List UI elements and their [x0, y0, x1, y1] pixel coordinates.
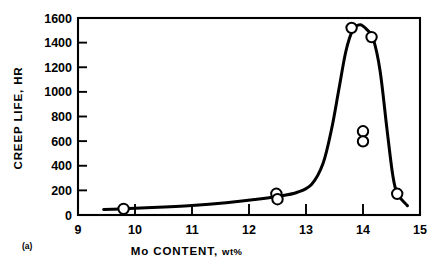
y-tick-label-800: 800	[51, 110, 72, 124]
y-tick-label-1400: 1400	[44, 36, 72, 50]
x-tick-label-14: 14	[356, 223, 370, 237]
y-tick-label-1000: 1000	[44, 85, 72, 99]
data-point-marker: 14.0 wt%, 598 hr	[358, 136, 368, 146]
plot-frame	[78, 18, 420, 215]
y-tick-label-0: 0	[65, 209, 72, 223]
y-tick-label-1200: 1200	[44, 61, 72, 75]
x-axis-tick-labels: 9101112131415	[75, 223, 427, 237]
y-axis-ticks	[78, 18, 87, 215]
data-point-marker: 14.6 wt%, 172 hr	[392, 189, 402, 199]
data-point-marker: 12.5 wt%, 128 hr	[272, 194, 282, 204]
y-tick-label-1600: 1600	[44, 12, 72, 26]
data-point-markers: 9.8 wt%, 50 hr12.48 wt%, 172 hr12.5 wt%,…	[118, 23, 402, 214]
data-point-marker: 9.8 wt%, 50 hr	[118, 204, 128, 214]
x-tick-label-11: 11	[185, 223, 198, 237]
x-tick-label-9: 9	[75, 223, 82, 237]
creep-life-vs-mo-content-chart: 02004006008001000120014001600 9101112131…	[0, 0, 447, 267]
creep-life-curve	[104, 25, 408, 210]
x-tick-label-10: 10	[128, 223, 142, 237]
y-tick-label-200: 200	[51, 184, 72, 198]
y-axis-tick-labels: 02004006008001000120014001600	[44, 12, 72, 223]
data-point-marker: 13.8 wt%, 1520 hr	[346, 23, 356, 33]
x-axis-unit-label: wt%	[221, 246, 243, 257]
x-axis-title: Mo CONTENT,	[131, 245, 218, 257]
figure-container: 02004006008001000120014001600 9101112131…	[0, 0, 447, 267]
y-tick-label-400: 400	[51, 159, 72, 173]
data-point-marker: 14.15 wt%, 1445 hr	[366, 32, 376, 42]
data-point-marker: 14.0 wt%, 680 hr	[358, 126, 368, 136]
x-tick-label-13: 13	[299, 223, 313, 237]
x-tick-label-12: 12	[242, 223, 256, 237]
panel-label: (a)	[22, 241, 33, 251]
y-axis-title: CREEP LIFE, HR	[12, 66, 24, 169]
y-tick-label-600: 600	[51, 135, 72, 149]
x-tick-label-15: 15	[413, 223, 427, 237]
